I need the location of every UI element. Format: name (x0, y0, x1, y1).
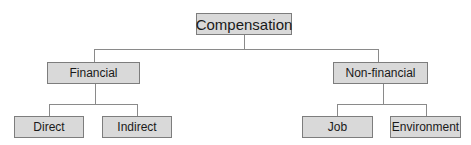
node-non-financial: Non-financial (333, 62, 428, 84)
connector-to-direct (49, 104, 50, 116)
connector-root-down (244, 35, 245, 49)
connector-non-financial-down (383, 84, 384, 104)
connector-to-non-financial (378, 49, 379, 62)
node-financial: Financial (47, 62, 140, 84)
node-environment: Environment (390, 116, 461, 138)
connector-non-financial-children-bar (337, 104, 426, 105)
connector-to-environment (426, 104, 427, 116)
connector-level1-bar (94, 49, 379, 50)
node-direct: Direct (14, 116, 84, 138)
connector-to-financial (94, 49, 95, 62)
connector-financial-children-bar (49, 104, 137, 105)
node-indirect: Indirect (102, 116, 172, 138)
node-compensation: Compensation (196, 13, 292, 35)
connector-to-job (337, 104, 338, 116)
node-job: Job (302, 116, 373, 138)
connector-financial-down (95, 84, 96, 104)
connector-to-indirect (137, 104, 138, 116)
